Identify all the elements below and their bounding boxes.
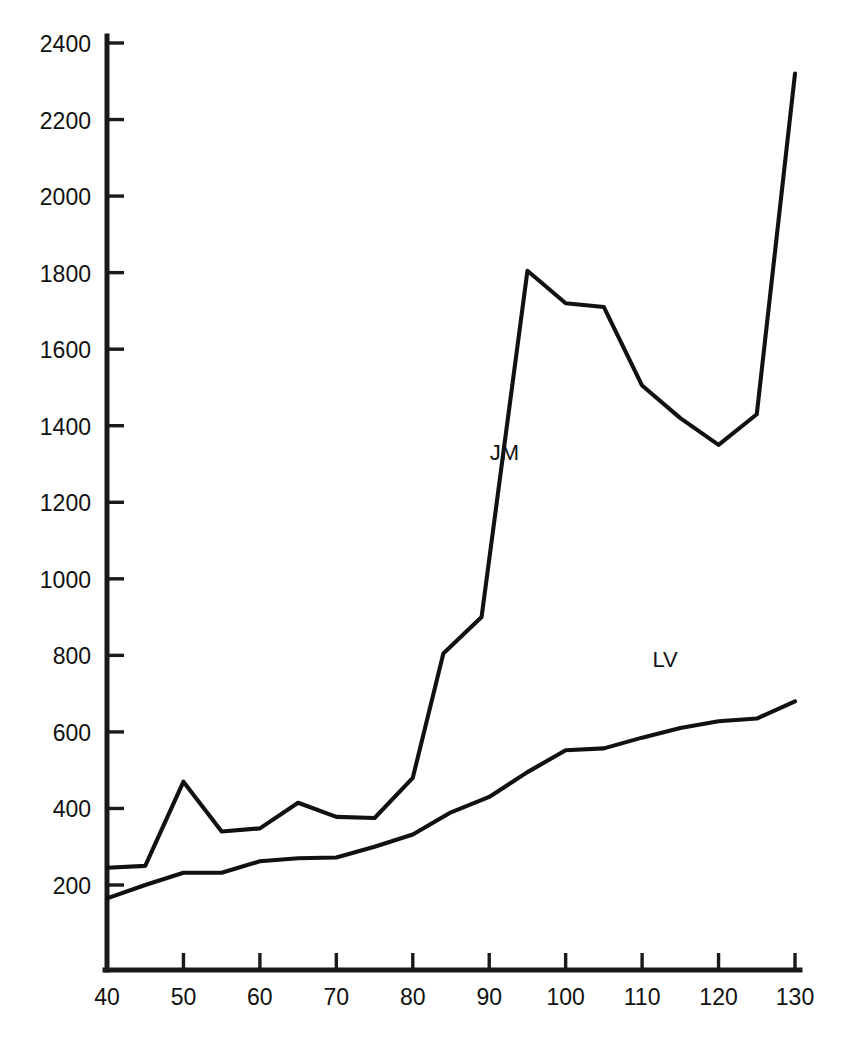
x-tick-label-60: 60 [247,984,273,1010]
chart-series-labels: JMLV [490,440,678,672]
y-tick-label-1400: 1400 [40,414,91,440]
x-tick-label-40: 40 [94,984,120,1010]
y-tick-label-200: 200 [53,873,91,899]
y-axis-tick-labels: 2004006008001000120014001600180020002200… [40,31,91,899]
x-axis-tick-labels: 405060708090100110120130 [94,984,814,1010]
chart-axes [105,36,800,970]
y-tick-label-600: 600 [53,720,91,746]
chart-series-lines [107,74,795,899]
y-tick-label-1000: 1000 [40,567,91,593]
y-tick-label-2000: 2000 [40,184,91,210]
x-tick-label-90: 90 [476,984,502,1010]
series-label-jm: JM [490,440,519,465]
y-tick-label-800: 800 [53,643,91,669]
x-tick-label-70: 70 [324,984,350,1010]
x-tick-label-110: 110 [624,984,661,1010]
x-tick-label-130: 130 [776,984,814,1010]
x-tick-label-50: 50 [171,984,197,1010]
series-label-lv: LV [652,647,678,672]
series-line-lv [107,701,795,898]
series-line-jm [107,74,795,868]
x-tick-label-120: 120 [699,984,737,1010]
x-tick-label-80: 80 [400,984,426,1010]
y-tick-label-2400: 2400 [40,31,91,57]
y-tick-label-1800: 1800 [40,261,91,287]
y-tick-label-1200: 1200 [40,490,91,516]
figure-caption-bottom [0,1030,858,1046]
y-tick-label-2200: 2200 [40,108,91,134]
y-tick-label-1600: 1600 [40,337,91,363]
line-chart-plot: 2004006008001000120014001600180020002200… [0,0,858,1046]
chart-figure: 2004006008001000120014001600180020002200… [0,0,858,1046]
y-tick-label-400: 400 [53,796,91,822]
x-tick-label-100: 100 [546,984,584,1010]
